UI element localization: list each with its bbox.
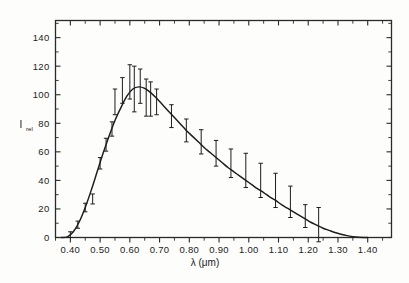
x-tick-label: 0.60 [120,244,140,255]
x-axis-tick-labels: 0.400.500.600.700.800.901.001.101.201.30… [61,244,378,255]
x-tick-label: 1.40 [358,244,378,255]
y-tick-label: 140 [33,32,50,43]
y-axis-title-subscript: rel [26,125,33,132]
x-tick-label: 0.90 [209,244,229,255]
x-tick-label: 0.70 [150,244,170,255]
x-tick-label: 1.30 [328,244,348,255]
y-tick-label: 0 [44,232,50,243]
y-tick-label: 80 [38,118,49,129]
spectral-intensity-chart: 0.400.500.600.700.800.901.001.101.201.30… [0,0,409,283]
x-axis-title: λ (μm) [191,257,220,268]
x-tick-label: 0.50 [90,244,110,255]
y-tick-label: 100 [33,89,50,100]
y-tick-label: 60 [38,146,49,157]
x-tick-label: 1.20 [298,244,318,255]
y-tick-label: 120 [33,61,50,72]
x-tick-label: 1.10 [269,244,289,255]
y-tick-label: 20 [38,203,49,214]
x-tick-label: 1.00 [239,244,259,255]
x-tick-label: 0.40 [61,244,81,255]
y-axis-title-main: I [20,119,23,130]
figure-root: 0.400.500.600.700.800.901.001.101.201.30… [0,0,409,283]
x-tick-label: 0.80 [179,244,199,255]
y-tick-label: 40 [38,175,49,186]
